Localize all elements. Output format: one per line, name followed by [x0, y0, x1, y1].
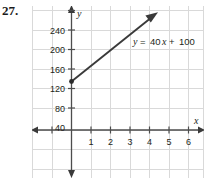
y-tick-label-40: 40 — [55, 123, 65, 133]
equation-plus: + — [169, 36, 175, 47]
problem-number: 27. — [2, 3, 18, 19]
coordinate-graph: 240 200 160 120 80 40 1 2 3 4 5 6 y x y … — [32, 6, 204, 178]
x-tick-label-4: 4 — [147, 137, 152, 147]
equation-slope: 40 — [150, 36, 161, 47]
equation-y: y — [132, 36, 138, 47]
y-tick-label-160: 160 — [50, 65, 65, 75]
equation-label: y = 40 x + 100 — [132, 36, 195, 47]
x-axis-label: x — [193, 115, 199, 126]
equation-equals: = — [140, 36, 146, 47]
y-tick-label-80: 80 — [55, 104, 65, 114]
x-tick-label-2: 2 — [108, 137, 113, 147]
y-axis-label: y — [76, 8, 82, 19]
x-tick-label-3: 3 — [127, 137, 132, 147]
y-tick-label-200: 200 — [50, 45, 65, 55]
y-tick-label-240: 240 — [50, 26, 65, 36]
x-tick-label-6: 6 — [186, 137, 191, 147]
x-tick-label-1: 1 — [88, 137, 93, 147]
equation-x: x — [161, 36, 167, 47]
x-tick-label-5: 5 — [166, 137, 171, 147]
y-intercept-point — [69, 79, 74, 84]
equation-intercept: 100 — [179, 36, 195, 47]
figure-container: 27. — [0, 0, 210, 181]
y-tick-label-120: 120 — [50, 84, 65, 94]
